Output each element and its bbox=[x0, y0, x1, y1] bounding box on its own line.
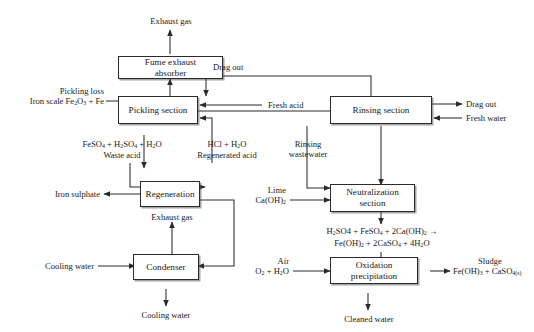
fume-exhaust-absorber-label: Fume exhaust absorber bbox=[145, 57, 196, 79]
label-drag-out-top: Drag out bbox=[213, 62, 243, 72]
label-drag-out-right: Drag out bbox=[466, 99, 496, 109]
regenerated-acid-line2: Regenerated acid bbox=[197, 150, 256, 160]
label-exhaust-gas-top: Exhaust gas bbox=[132, 16, 210, 26]
lime-formula: Ca(OH)2 bbox=[255, 195, 286, 205]
oxidation-label: Oxidation precipitation bbox=[351, 260, 397, 282]
node-oxidation-precipitation[interactable]: Oxidation precipitation bbox=[330, 257, 418, 284]
neutralization-label: Neutralization section bbox=[346, 187, 399, 209]
label-sludge: Sludge Fe(OH)3 + CaSO4(s) bbox=[453, 256, 534, 278]
label-pickling-loss: Pickling loss Iron scale Fe2O3 + Fe bbox=[0, 86, 104, 108]
reaction-line-2: Fe(OH)2 + 2CaSO4 + 4H2O bbox=[334, 238, 429, 248]
label-fresh-water: Fresh water bbox=[466, 113, 506, 123]
pickling-section-label: Pickling section bbox=[129, 105, 188, 116]
sludge-line1: Sludge bbox=[453, 256, 527, 266]
node-rinsing-section[interactable]: Rinsing section bbox=[330, 96, 432, 124]
pickling-loss-line1: Pickling loss bbox=[60, 86, 104, 96]
connector-lines bbox=[0, 0, 534, 332]
regeneration-label: Regeneration bbox=[146, 189, 195, 200]
lime-line1: Lime bbox=[268, 185, 286, 195]
label-fresh-acid: Fresh acid bbox=[268, 100, 304, 110]
label-iron-sulphate: Iron sulphate bbox=[14, 189, 100, 199]
iron-scale-formula: Iron scale Fe2O3 + Fe bbox=[30, 96, 104, 106]
condenser-label: Condenser bbox=[146, 262, 185, 273]
label-neutralization-reaction: H2SO4 + FeSO4 + 2Ca(OH)2 → Fe(OH)2 + 2Ca… bbox=[296, 226, 468, 250]
reaction-line-1: H2SO4 + FeSO4 + 2Ca(OH)2 → bbox=[327, 226, 438, 236]
rinsing-wastewater-line1: Rinsing bbox=[295, 139, 322, 149]
node-condenser[interactable]: Condenser bbox=[133, 254, 199, 280]
regenerated-acid-formula: HCl + H2O bbox=[208, 139, 247, 149]
sludge-formula: Fe(OH)3 + CaSO4(s) bbox=[453, 266, 521, 276]
wire-regeneration-to-condenser bbox=[198, 200, 234, 266]
label-regenerated-acid: HCl + H2O Regenerated acid bbox=[167, 139, 287, 161]
waste-acid-formula: FeSO4 + H2SO4 + H2O bbox=[82, 139, 161, 149]
node-pickling-section[interactable]: Pickling section bbox=[118, 96, 198, 124]
label-air: Air O2 + H2O bbox=[232, 256, 289, 278]
node-regeneration[interactable]: Regeneration bbox=[140, 181, 200, 207]
air-line1: Air bbox=[278, 256, 289, 266]
label-cooling-water-in: Cooling water bbox=[6, 261, 94, 271]
label-exhaust-gas-regeneration: Exhaust gas bbox=[133, 212, 211, 222]
waste-acid-line2: Waste acid bbox=[103, 150, 140, 160]
label-line-2: absorber bbox=[155, 68, 187, 78]
node-fume-exhaust-absorber[interactable]: Fume exhaust absorber bbox=[118, 56, 223, 79]
node-neutralization-section[interactable]: Neutralization section bbox=[330, 184, 415, 212]
label-cooling-water-out: Cooling water bbox=[126, 310, 206, 320]
label-rinsing-wastewater: Rinsing wastewater bbox=[272, 139, 344, 160]
wire-drag-out-to-pickling bbox=[206, 76, 371, 97]
label-line-2: section bbox=[359, 198, 385, 208]
label-line-2: precipitation bbox=[351, 271, 397, 281]
label-lime: Lime Ca(OH)2 bbox=[228, 185, 286, 207]
air-formula: O2 + H2O bbox=[255, 266, 289, 276]
label-cleaned-water: Cleaned water bbox=[330, 314, 408, 324]
rinsing-section-label: Rinsing section bbox=[353, 105, 410, 116]
label-line-1: Oxidation bbox=[356, 260, 393, 270]
process-flow-diagram: Fume exhaust absorber Pickling section R… bbox=[0, 0, 534, 332]
label-line-1: Neutralization bbox=[346, 187, 399, 197]
label-line-1: Fume exhaust bbox=[145, 57, 196, 67]
rinsing-wastewater-line2: wastewater bbox=[289, 149, 328, 159]
